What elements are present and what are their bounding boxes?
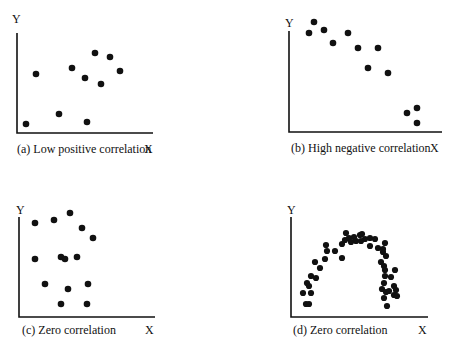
x-axis-label: X: [430, 141, 439, 155]
y-axis-label: Y: [16, 203, 25, 217]
data-point: [367, 243, 373, 249]
data-point: [382, 240, 388, 246]
data-point: [332, 248, 338, 254]
data-point: [321, 27, 328, 34]
data-point: [322, 256, 328, 262]
data-point: [345, 30, 352, 37]
data-point: [56, 111, 63, 118]
axes: [17, 33, 153, 133]
data-point: [372, 236, 378, 242]
data-point: [414, 120, 421, 127]
y-axis-label: Y: [285, 16, 294, 30]
data-point: [324, 248, 330, 254]
data-point: [306, 30, 313, 37]
data-point: [84, 119, 91, 126]
data-point: [65, 286, 72, 293]
data-point: [394, 293, 400, 299]
data-point: [51, 217, 58, 224]
caption: (b) High negative correlation: [291, 141, 431, 155]
data-point: [414, 105, 421, 112]
data-points: [32, 210, 97, 308]
data-points: [306, 19, 421, 127]
data-point: [32, 220, 39, 227]
data-point: [67, 210, 74, 217]
data-point: [107, 54, 114, 61]
data-point: [313, 275, 319, 281]
data-point: [23, 121, 30, 128]
data-point: [386, 288, 392, 294]
data-point: [79, 225, 86, 232]
data-point: [306, 283, 312, 289]
data-point: [58, 301, 65, 308]
data-point: [343, 230, 349, 236]
panel-d: Y (d) Zero correlation X: [287, 203, 428, 337]
x-axis-label: X: [144, 142, 153, 156]
data-point: [62, 256, 69, 263]
x-axis-label: X: [145, 323, 154, 337]
data-point: [92, 50, 99, 57]
data-point: [85, 281, 92, 288]
data-point: [358, 238, 364, 244]
data-point: [33, 71, 40, 78]
caption: (c) Zero correlation: [22, 323, 116, 337]
data-point: [117, 68, 124, 75]
data-point: [42, 281, 49, 288]
data-point: [382, 273, 388, 279]
data-point: [355, 45, 362, 52]
data-point: [84, 301, 91, 308]
data-point: [312, 259, 318, 265]
caption: (a) Low positive correlation: [17, 142, 151, 156]
data-point: [375, 45, 382, 52]
data-point: [90, 235, 97, 242]
data-point: [82, 75, 89, 82]
data-point: [317, 265, 323, 271]
data-point: [381, 280, 387, 286]
data-point: [385, 70, 392, 77]
data-point: [339, 255, 345, 261]
data-point: [69, 65, 76, 72]
correlation-figure: Y (a) Low positive correlation X Y (b) H…: [0, 0, 450, 345]
axes: [289, 31, 442, 132]
panel-b: Y (b) High negative correlation X: [285, 16, 442, 155]
data-point: [382, 267, 388, 273]
data-point: [384, 303, 390, 309]
data-point: [330, 40, 337, 47]
y-axis-label: Y: [12, 12, 21, 26]
data-point: [311, 19, 318, 26]
data-point: [383, 253, 389, 259]
x-axis-label: X: [418, 323, 427, 337]
caption: (d) Zero correlation: [293, 323, 388, 337]
data-point: [74, 254, 81, 261]
data-point: [32, 256, 39, 263]
y-axis-label: Y: [287, 203, 296, 217]
panel-c: Y (c) Zero correlation X: [16, 203, 155, 337]
data-points: [23, 50, 124, 128]
data-point: [98, 81, 105, 88]
data-point: [404, 110, 411, 117]
data-point: [392, 267, 398, 273]
data-point: [365, 65, 372, 72]
data-point: [323, 242, 329, 248]
data-point: [308, 290, 314, 296]
data-point: [306, 301, 312, 307]
data-points: [300, 230, 400, 309]
data-point: [381, 295, 387, 301]
panel-a: Y (a) Low positive correlation X: [12, 12, 153, 156]
data-point: [300, 290, 306, 296]
data-point: [388, 274, 394, 280]
